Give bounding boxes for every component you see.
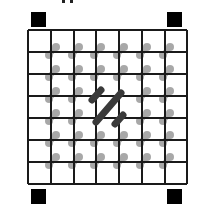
corner-marker-top-right [167, 12, 182, 27]
caption-fragment [70, 0, 73, 3]
grid-diagram-canvas [0, 0, 197, 219]
grid-diagram [0, 0, 197, 219]
highlight-stroke [115, 115, 123, 124]
corner-marker-bottom-left [31, 189, 46, 204]
corner-marker-bottom-right [167, 189, 182, 204]
corner-marker-top-left [31, 12, 46, 27]
highlight-stroke [92, 90, 101, 100]
caption-fragment [62, 0, 65, 3]
